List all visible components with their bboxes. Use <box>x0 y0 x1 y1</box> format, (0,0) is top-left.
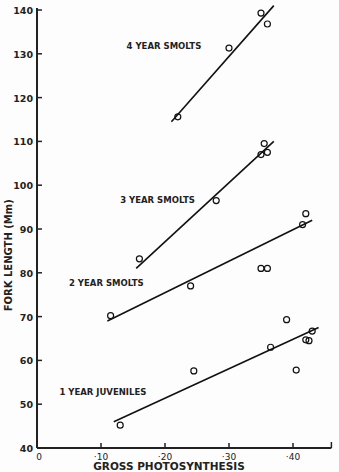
y-tick-label: 90 <box>20 224 34 235</box>
y-tick-label: 120 <box>13 93 33 104</box>
y-tick-label: 70 <box>20 312 34 323</box>
data-point <box>188 283 194 289</box>
chart-container: 4050607080901001101201301400·10·20·30·40… <box>0 0 339 472</box>
series-label: 4 YEAR SMOLTS <box>127 41 202 51</box>
data-point <box>117 422 123 428</box>
data-point <box>226 45 232 51</box>
y-tick-label: 140 <box>13 5 33 16</box>
x-axis-label: GROSS PHOTOSYNTHESIS <box>93 460 245 472</box>
x-tick-label: 0 <box>36 452 42 462</box>
y-tick-label: 50 <box>20 399 34 410</box>
data-point <box>293 367 299 373</box>
scatter-chart: 4050607080901001101201301400·10·20·30·40… <box>0 0 339 472</box>
data-point <box>258 10 264 16</box>
x-tick-label: ·40 <box>286 452 301 462</box>
data-point <box>108 313 114 319</box>
y-tick-label: 80 <box>20 268 34 279</box>
data-point <box>303 211 309 217</box>
regression-line <box>114 328 319 422</box>
regression-line <box>107 220 312 321</box>
data-point <box>191 368 197 374</box>
y-tick-label: 100 <box>13 180 33 191</box>
data-point <box>264 149 270 155</box>
y-tick-label: 130 <box>13 49 33 60</box>
data-point <box>264 265 270 271</box>
series-label: 3 YEAR SMOLTS <box>120 195 195 205</box>
data-point <box>258 265 264 271</box>
data-point <box>261 141 267 147</box>
data-point <box>213 198 219 204</box>
series-label: 2 YEAR SMOLTS <box>69 278 144 288</box>
series-label: 1 YEAR JUVENILES <box>59 387 146 397</box>
y-axis-label: FORK LENGTH (Mm) <box>3 199 14 311</box>
y-tick-label: 60 <box>20 355 34 366</box>
data-point <box>284 317 290 323</box>
data-point <box>264 21 270 27</box>
y-tick-label: 110 <box>13 136 33 147</box>
regression-line <box>171 6 273 122</box>
data-point <box>136 256 142 262</box>
y-tick-label: 40 <box>20 443 34 454</box>
